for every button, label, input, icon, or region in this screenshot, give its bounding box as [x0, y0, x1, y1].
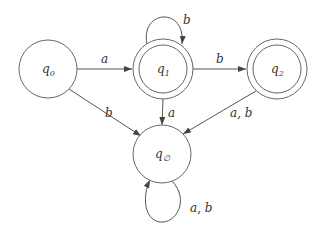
automaton-diagram: q0 q1 q2 q∅ a b b b a a, b a, b	[0, 0, 332, 236]
edge-label-q0-qempty: b	[105, 106, 113, 120]
edge-label-q2-qempty: a, b	[230, 106, 252, 120]
state-q2: q2	[247, 39, 307, 99]
state-qempty: q∅	[133, 125, 191, 183]
edge-q1-qempty	[162, 99, 163, 125]
edge-label-qempty-self: a, b	[190, 201, 212, 215]
state-q0: q0	[19, 40, 77, 98]
edge-label-q1-self: b	[183, 13, 191, 27]
edge-label-q1-q2: b	[216, 52, 224, 66]
edge-label-q0-q1: a	[101, 52, 108, 66]
edge-qempty-selfloop	[145, 180, 180, 222]
state-q1: q1	[133, 39, 193, 99]
edge-label-q1-qempty: a	[168, 106, 175, 120]
